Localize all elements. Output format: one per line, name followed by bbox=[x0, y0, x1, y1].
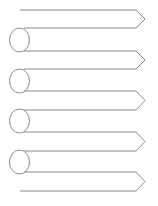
connector-circle-4 bbox=[10, 150, 30, 174]
connector-circle-1 bbox=[10, 28, 30, 52]
arrow-band-2 bbox=[24, 51, 145, 69]
arrow-band-4 bbox=[24, 132, 145, 151]
arrow-band-5 bbox=[20, 172, 145, 191]
connector-circle-2 bbox=[10, 69, 30, 93]
arrow-band-1 bbox=[20, 10, 145, 28]
connector-circle-3 bbox=[10, 109, 30, 133]
arrow-band-3 bbox=[24, 91, 145, 110]
ribbon-arrow-diagram bbox=[0, 0, 158, 206]
